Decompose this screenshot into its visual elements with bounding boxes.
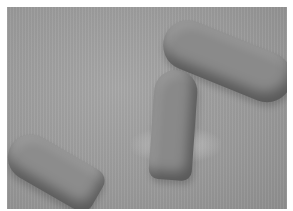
photograph [7, 7, 287, 209]
center-capsule [148, 69, 199, 182]
